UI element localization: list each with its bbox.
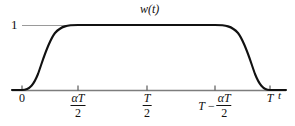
- fraction-numerator: αT: [217, 92, 232, 106]
- tick-label-0: 0: [19, 92, 25, 104]
- fraction-denominator: 2: [71, 106, 86, 119]
- tick-label-t-over-2: T 2: [143, 92, 152, 119]
- fraction-denominator: 2: [217, 106, 232, 119]
- fraction-alpha-t-over-2: αT 2: [71, 92, 86, 119]
- fraction-denominator: 2: [143, 106, 152, 119]
- window-function-curve: [12, 25, 286, 90]
- fraction-alpha-t-over-2: αT 2: [217, 92, 232, 119]
- tick-label-alpha-t-over-2: αT 2: [71, 92, 86, 119]
- minus-operator: −: [207, 100, 217, 112]
- fraction-numerator: T: [143, 92, 152, 106]
- fraction-t-over-2: T 2: [143, 92, 152, 119]
- fraction-numerator: αT: [71, 92, 86, 106]
- curve-name-label: w(t): [140, 3, 159, 15]
- y-axis-unity-label: 1: [11, 18, 18, 31]
- window-function-figure: 1 w(t) t 0 αT 2 T 2 T− αT 2 T: [0, 0, 295, 126]
- expression-lead-term: T: [198, 100, 207, 112]
- tick-label-t-minus-alpha-t-over-2: T− αT 2: [198, 92, 231, 119]
- x-axis-name-label: t: [278, 90, 281, 101]
- tick-label-t: T: [267, 92, 274, 104]
